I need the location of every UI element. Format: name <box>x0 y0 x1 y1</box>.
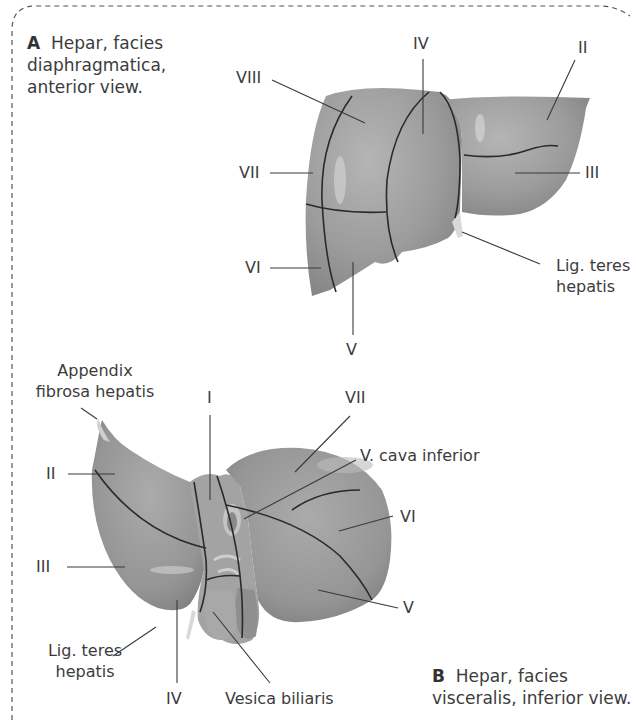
label-b-segment-v: V <box>403 598 414 617</box>
label-a-lig-teres-line-1: Lig. teres <box>556 256 630 275</box>
caption-b-line-1: Hepar, facies <box>456 666 568 686</box>
label-b-segment-i: I <box>207 388 212 407</box>
label-a-segment-viii: VIII <box>236 68 261 87</box>
label-b-appendix-fibrosa: Appendix fibrosa hepatis <box>30 360 160 402</box>
label-a-lig-teres: Lig. teres hepatis <box>556 255 630 297</box>
label-a-segment-iii: III <box>585 163 599 182</box>
label-b-vena-cava-inferior: V. cava inferior <box>360 446 479 465</box>
caption-b: B Hepar, facies visceralis, inferior vie… <box>432 665 631 709</box>
label-a-segment-vii: VII <box>239 163 259 182</box>
label-b-vesica-biliaris: Vesica biliaris <box>225 689 334 708</box>
caption-a-letter: A <box>27 33 40 53</box>
label-b-segment-iii: III <box>36 557 50 576</box>
label-b-lig-teres-line-1: Lig. teres <box>48 641 122 660</box>
caption-b-letter: B <box>432 666 445 686</box>
label-b-lig-teres: Lig. teres hepatis <box>40 640 130 682</box>
figure-frame: A Hepar, facies diaphragmatica, anterior… <box>0 0 636 721</box>
label-b-appendix-line-1: Appendix <box>57 361 132 380</box>
liver-inferior <box>92 418 392 644</box>
label-b-segment-iv: IV <box>166 689 182 708</box>
label-a-segment-v: V <box>346 340 357 359</box>
label-a-segment-iv: IV <box>413 34 429 53</box>
caption-a: A Hepar, facies diaphragmatica, anterior… <box>27 32 166 98</box>
label-b-segment-vii: VII <box>345 388 365 407</box>
label-b-segment-ii: II <box>46 464 55 483</box>
caption-a-line-2: diaphragmatica, <box>27 54 166 76</box>
label-b-appendix-line-2: fibrosa hepatis <box>36 382 154 401</box>
label-b-lig-teres-line-2: hepatis <box>56 662 115 681</box>
caption-b-line-2: visceralis, inferior view. <box>432 687 631 709</box>
label-a-segment-vi: VI <box>245 258 261 277</box>
caption-a-line-3: anterior view. <box>27 76 166 98</box>
label-b-segment-vi: VI <box>400 507 416 526</box>
label-a-segment-ii: II <box>578 38 587 57</box>
caption-a-line-1: Hepar, facies <box>51 33 163 53</box>
label-a-lig-teres-line-2: hepatis <box>556 277 615 296</box>
